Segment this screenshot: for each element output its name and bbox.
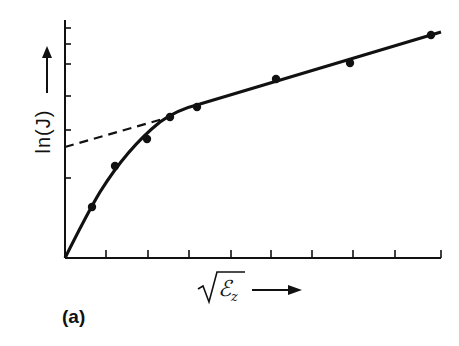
panel-label: (a)	[62, 306, 85, 328]
data-point	[272, 75, 280, 83]
x-ticks	[106, 250, 441, 258]
x-axis-subscript: z	[231, 289, 238, 304]
y-arrow-icon	[42, 46, 52, 93]
data-point	[143, 135, 151, 143]
y-axis-label: ln(J)	[32, 110, 55, 154]
x-axis-label: ℰz	[218, 276, 238, 304]
data-point	[88, 203, 96, 211]
x-axis-symbol: ℰ	[218, 276, 231, 301]
data-points	[88, 31, 435, 211]
data-point	[111, 162, 119, 170]
fitted-curve	[65, 32, 441, 258]
data-point	[166, 113, 174, 121]
data-point	[346, 59, 354, 67]
axes	[65, 20, 441, 258]
data-point	[193, 103, 201, 111]
data-point	[427, 31, 435, 39]
dashed-extrapolation-line	[65, 117, 170, 147]
x-arrow-icon	[252, 285, 302, 295]
